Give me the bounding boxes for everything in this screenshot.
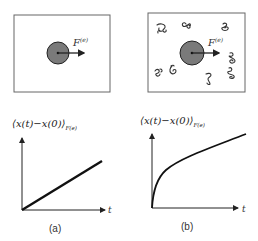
x-axis-label-a: t xyxy=(108,205,112,215)
curve-b xyxy=(152,134,246,208)
y-axis-sub-a: F(e) xyxy=(64,125,76,131)
x-axis-label-b: t xyxy=(242,204,246,214)
curve-a xyxy=(22,161,102,210)
y-axis-sub-b: F(e) xyxy=(192,122,204,128)
y-axis-label-b: ⟨x(t)−x(0)⟩ xyxy=(140,115,194,126)
svg-text:⟨x(t)−x(0)⟩F(e): ⟨x(t)−x(0)⟩F(e) xyxy=(12,118,77,131)
diagram-canvas: F(e) F(e) ⟨x(t)−x(0)⟩F(e) xyxy=(0,0,258,241)
force-sup-a: (e) xyxy=(80,36,89,43)
panel-b-box: F(e) xyxy=(148,13,245,92)
caption-a: (a) xyxy=(49,223,61,234)
plot-b: ⟨x(t)−x(0)⟩F(e) t (b) xyxy=(140,115,246,232)
caption-b: (b) xyxy=(181,221,193,232)
force-sup-b: (e) xyxy=(215,36,224,43)
svg-text:⟨x(t)−x(0)⟩F(e): ⟨x(t)−x(0)⟩F(e) xyxy=(140,115,205,128)
y-axis-label-a: ⟨x(t)−x(0)⟩ xyxy=(12,118,66,129)
plot-a: ⟨x(t)−x(0)⟩F(e) t (a) xyxy=(12,118,112,234)
panel-a-box: F(e) xyxy=(14,15,110,92)
